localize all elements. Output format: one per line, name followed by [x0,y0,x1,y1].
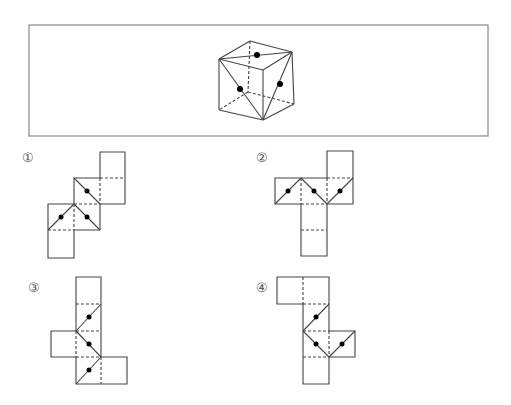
dot-marker [87,315,92,320]
option-1-label[interactable]: ① [22,150,34,165]
option-4-label[interactable]: ④ [256,280,268,295]
dot-marker [277,81,283,87]
hidden-edge [219,92,248,110]
cube-edge [292,52,294,104]
dot-marker [87,368,92,373]
dot-marker [85,189,90,194]
dot-marker [340,342,345,347]
dot-marker [312,189,317,194]
dot-marker [87,342,92,347]
dot-marker [59,215,64,220]
dot-marker [286,189,291,194]
cube-edge [263,52,292,120]
dot-marker [85,215,90,220]
option-2-net[interactable] [275,151,353,256]
dot-marker [314,342,319,347]
dot-marker [237,86,243,92]
dot-marker [338,189,343,194]
dot-marker [254,52,260,58]
option-3-net[interactable] [51,277,127,384]
option-1-net[interactable] [48,152,125,258]
cube-figure [219,41,294,120]
diagram-canvas [0,0,511,405]
cube-edge [250,41,292,52]
option-3-label[interactable]: ③ [28,280,40,295]
option-2-label[interactable]: ② [256,150,268,165]
cube-edge [263,104,294,120]
option-4-net[interactable] [277,277,355,384]
dot-marker [314,315,319,320]
net-outline [48,152,125,258]
